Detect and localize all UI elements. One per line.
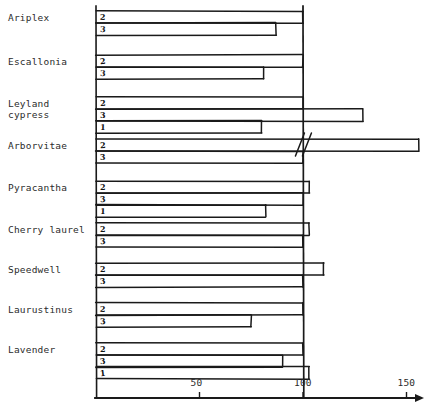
bar-series-number: 2 xyxy=(99,12,105,20)
bar-series-number: 3 xyxy=(99,24,105,32)
bar-series-number: 3 xyxy=(99,356,105,365)
bar xyxy=(96,151,304,163)
bar-series-number: 2 xyxy=(99,304,105,312)
bar-series-number: 2 xyxy=(99,344,105,352)
x-axis-arrowhead xyxy=(415,394,424,402)
bar-series-number: 1 xyxy=(99,122,105,130)
bar xyxy=(96,67,264,79)
bar xyxy=(96,193,303,205)
bar-chart: 23232312323123232323150100150AriplexEsca… xyxy=(0,0,430,418)
category-label: Escallonia xyxy=(8,56,92,67)
bar xyxy=(96,109,364,122)
bar xyxy=(96,235,303,247)
x-tick-label: 150 xyxy=(398,377,416,388)
category-label: Pyracantha xyxy=(8,182,92,193)
bar-series-number: 3 xyxy=(99,276,105,285)
bar-series-number: 2 xyxy=(99,56,105,64)
x-tick-label: 50 xyxy=(191,377,203,388)
bar xyxy=(96,181,310,193)
bar xyxy=(96,55,304,68)
bar-top-edge xyxy=(96,193,302,194)
bar xyxy=(96,23,277,36)
category-label: Cherry laurel xyxy=(8,224,92,235)
bar-bottom-edge xyxy=(96,379,309,380)
category-label: Ariplex xyxy=(8,12,92,23)
bar-bottom-edge xyxy=(96,287,303,288)
bar-series-number: 3 xyxy=(99,236,105,244)
bar xyxy=(96,133,419,156)
bar-top-edge xyxy=(96,55,303,56)
bar-series-number: 2 xyxy=(99,98,105,106)
plot-left-edge xyxy=(96,6,97,398)
bar-series-number: 3 xyxy=(99,152,105,160)
bar xyxy=(96,121,262,134)
category-label: Leyland cypress xyxy=(8,98,92,120)
bar xyxy=(96,205,266,217)
bar-end-cap xyxy=(251,315,252,326)
bar-series-number: 2 xyxy=(99,182,105,190)
bar-series-number: 1 xyxy=(99,206,105,214)
bar-bottom-edge xyxy=(96,79,264,80)
bar xyxy=(96,223,309,236)
bar-bottom-edge xyxy=(96,327,251,328)
bar-series-number: 2 xyxy=(99,140,105,148)
bar-series-number: 2 xyxy=(99,264,105,272)
bar xyxy=(96,315,251,327)
bar-series-number: 1 xyxy=(99,368,105,377)
bar xyxy=(96,303,303,316)
bar xyxy=(96,343,304,355)
category-label: Speedwell xyxy=(8,264,92,275)
bar xyxy=(96,367,309,380)
bar-series-number: 3 xyxy=(99,68,105,76)
x-tick-label: 100 xyxy=(294,377,312,388)
bar-series-number: 3 xyxy=(99,316,105,324)
bar-series-number: 3 xyxy=(99,110,105,118)
bar-top-edge xyxy=(96,11,303,12)
category-label: Lavender xyxy=(8,344,92,355)
bar-end-cap xyxy=(303,55,304,67)
bar-series-number: 3 xyxy=(99,194,105,202)
bar-series-number: 2 xyxy=(99,224,105,232)
bar xyxy=(96,355,283,367)
bar xyxy=(96,11,303,24)
bar-top-edge xyxy=(96,151,303,152)
bar xyxy=(96,275,303,287)
category-label: Arborvitae xyxy=(8,140,92,151)
bar xyxy=(96,97,303,109)
bar-end-cap xyxy=(309,223,310,235)
bar-top-edge xyxy=(96,109,363,110)
category-label: Laurustinus xyxy=(8,304,92,315)
bar xyxy=(96,263,324,275)
